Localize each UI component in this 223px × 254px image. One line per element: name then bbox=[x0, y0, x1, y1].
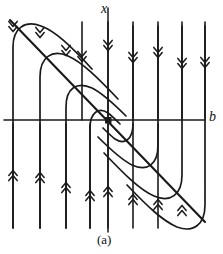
arrowheads-upper-field bbox=[9, 21, 209, 68]
figure-container: x b (a) bbox=[0, 0, 223, 254]
bending-trajectories-upper-left bbox=[13, 24, 126, 228]
bending-trajectory bbox=[98, 26, 158, 168]
arrow-down-icon bbox=[36, 27, 44, 37]
phase-portrait-svg bbox=[0, 0, 223, 254]
bending-trajectory bbox=[66, 85, 126, 228]
arrowheads-lower-field bbox=[9, 170, 186, 215]
flow-lines-lower bbox=[13, 124, 158, 228]
arrow-up-icon bbox=[178, 205, 186, 215]
flow-lines-upper bbox=[82, 22, 205, 120]
bending-trajectory bbox=[104, 26, 182, 198]
bending-trajectory bbox=[40, 54, 118, 228]
vertical-axis-label-x: x bbox=[101, 2, 107, 16]
horizontal-axis-label-b: b bbox=[209, 110, 216, 124]
origin-fixed-point-dot bbox=[105, 117, 112, 124]
panel-caption: (a) bbox=[97, 233, 111, 246]
